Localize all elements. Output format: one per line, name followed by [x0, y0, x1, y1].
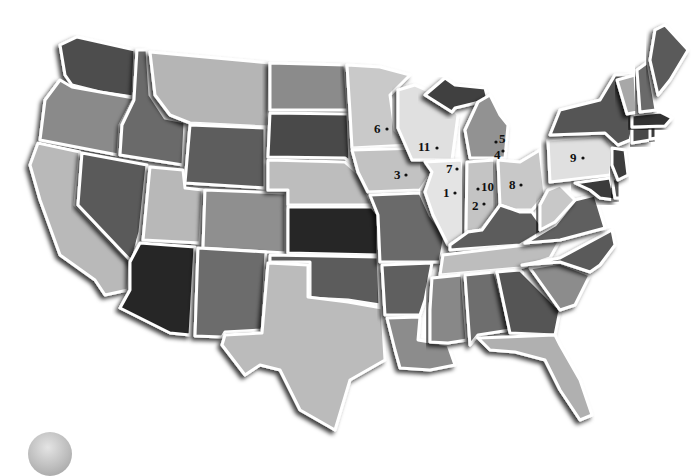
state-wyoming[interactable] [185, 125, 265, 188]
state-massachusetts[interactable] [632, 112, 672, 127]
svg-text:7: 7 [446, 161, 453, 176]
svg-text:1: 1 [443, 185, 450, 200]
svg-text:5: 5 [499, 131, 506, 146]
svg-text:8: 8 [509, 177, 516, 192]
state-montana[interactable] [150, 52, 270, 127]
svg-text:10: 10 [481, 179, 494, 194]
state-colorado[interactable] [203, 190, 286, 253]
state-south-dakota[interactable] [268, 113, 350, 162]
state-arizona[interactable] [120, 243, 195, 335]
svg-text:6: 6 [374, 121, 381, 136]
state-mississippi[interactable] [430, 275, 467, 343]
svg-text:11: 11 [418, 139, 430, 154]
state-rhode-island[interactable] [650, 127, 656, 139]
svg-text:3: 3 [394, 167, 401, 182]
state-north-dakota[interactable] [270, 63, 348, 110]
state-connecticut[interactable] [632, 127, 650, 143]
state-new-jersey[interactable] [612, 148, 628, 180]
svg-text:9: 9 [570, 150, 577, 165]
state-kansas[interactable] [288, 207, 378, 255]
state-florida[interactable] [478, 335, 592, 420]
svg-text:2: 2 [472, 198, 479, 213]
state-maine[interactable] [650, 25, 688, 95]
state-arkansas[interactable] [382, 263, 432, 315]
corner-sphere-decoration [28, 432, 72, 476]
svg-text:4: 4 [494, 147, 501, 162]
state-new-mexico[interactable] [195, 248, 266, 337]
